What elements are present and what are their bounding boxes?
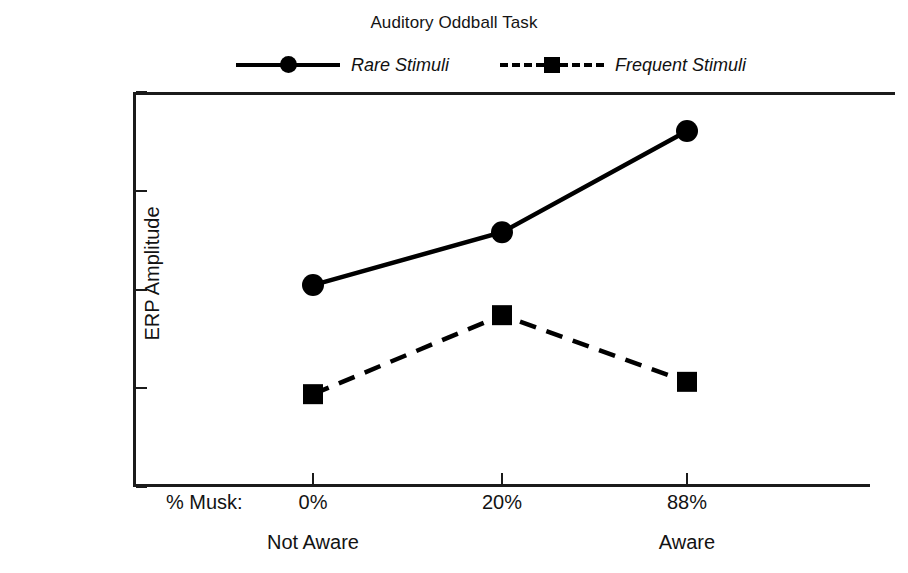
chart-title: Auditory Oddball Task bbox=[0, 13, 908, 33]
data-point-square[interactable] bbox=[677, 372, 697, 392]
data-point-circle[interactable] bbox=[302, 274, 324, 296]
chart-figure: Auditory Oddball Task Rare Stimuli Frequ… bbox=[0, 0, 908, 573]
legend-label-rare-stimuli: Rare Stimuli bbox=[351, 55, 449, 76]
chart-legend: Rare Stimuli Frequent Stimuli bbox=[236, 50, 796, 80]
series-line-frequent-stimuli bbox=[313, 315, 687, 394]
x-group-label: Not Aware bbox=[223, 531, 403, 554]
x-group-label: Aware bbox=[597, 531, 777, 554]
legend-label-frequent-stimuli: Frequent Stimuli bbox=[615, 55, 746, 76]
series-line-rare-stimuli bbox=[313, 131, 687, 285]
circle-marker-icon bbox=[280, 56, 297, 73]
data-point-square[interactable] bbox=[303, 384, 323, 404]
x-tick-label: 0% bbox=[253, 491, 373, 514]
legend-sample-dashed-square bbox=[500, 50, 604, 80]
data-point-square[interactable] bbox=[492, 305, 512, 325]
data-point-circle[interactable] bbox=[676, 120, 698, 142]
legend-entry-frequent-stimuli[interactable]: Frequent Stimuli bbox=[500, 50, 746, 80]
legend-entry-rare-stimuli[interactable]: Rare Stimuli bbox=[236, 50, 449, 80]
x-tick-label: 88% bbox=[627, 491, 747, 514]
data-point-circle[interactable] bbox=[491, 221, 513, 243]
x-axis-title: % Musk: bbox=[166, 491, 243, 514]
plot-area: 2004006008001000 0%Not Aware20%88%Aware … bbox=[133, 92, 895, 487]
square-marker-icon bbox=[544, 57, 560, 73]
legend-sample-solid-circle bbox=[236, 50, 340, 80]
x-tick-label: 20% bbox=[442, 491, 562, 514]
data-series-layer bbox=[133, 92, 895, 487]
